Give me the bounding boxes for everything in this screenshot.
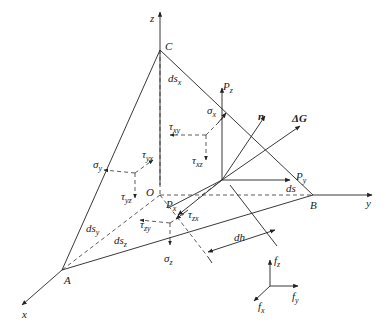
- normal-n-label: n: [258, 110, 264, 122]
- tau-xy-label: τxy: [169, 120, 180, 135]
- tau-zy-arrow: [140, 220, 170, 223]
- inclined-face-forces: [168, 88, 300, 215]
- sigma-y-label: σy: [93, 158, 102, 173]
- fx-arrow: [254, 286, 270, 301]
- fz-label: fz: [274, 254, 281, 269]
- x-axis-label: x: [21, 308, 27, 320]
- tau-zx-label: τzx: [188, 208, 199, 223]
- x-face-stresses: [170, 113, 226, 160]
- normal-n-arrow: [222, 116, 265, 180]
- point-B: B: [310, 199, 317, 211]
- tau-xz-label: τxz: [192, 154, 203, 169]
- fx-label: fx: [258, 300, 265, 315]
- point-A: A: [63, 274, 71, 286]
- ds-y-label: dsy: [86, 222, 100, 237]
- labels: z y x C O B A dsx dsy dsz ds dh Pz Py Px…: [21, 12, 371, 320]
- tau-yx-label: τyx: [142, 148, 153, 163]
- fy-label: fy: [292, 290, 299, 305]
- tetrahedron-diagram: z y x C O B A dsx dsy dsz ds dh Pz Py Px…: [0, 0, 386, 326]
- edge-CB: [160, 50, 313, 195]
- point-O: O: [146, 186, 154, 198]
- Px-label: Px: [165, 198, 177, 213]
- point-C: C: [165, 40, 173, 52]
- y-axis-label: y: [365, 197, 371, 209]
- sigma-z-label: σz: [164, 252, 173, 267]
- deltaG-label: ΔG: [291, 112, 307, 124]
- tetrahedron: [62, 50, 313, 270]
- sigma-x-label: σx: [207, 104, 216, 119]
- dh-label: dh: [234, 231, 246, 243]
- Pz-label: Pz: [222, 80, 234, 95]
- x-axis: [22, 270, 62, 305]
- Py-label: Py: [295, 170, 307, 185]
- z-axis-label: z: [149, 12, 155, 24]
- ds-x-label: dsx: [168, 72, 182, 87]
- ds-label: ds: [286, 182, 296, 194]
- coordinate-axes: [22, 12, 372, 305]
- height-dimension: [160, 185, 277, 263]
- tau-yz-label: τyz: [121, 190, 132, 205]
- sigma-y-arrow: [104, 170, 135, 173]
- ds-z-label: dsz: [114, 234, 128, 249]
